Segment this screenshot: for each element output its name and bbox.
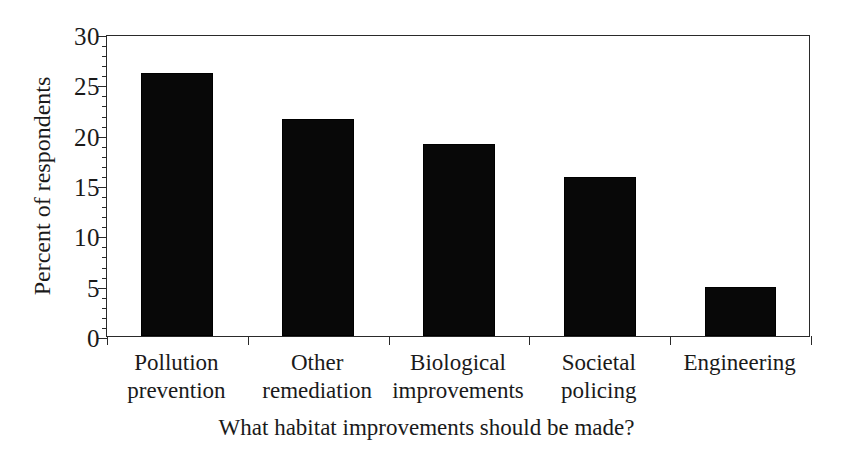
y-axis-tick-label: 5 xyxy=(87,275,100,300)
y-axis-minor-tick xyxy=(102,117,107,118)
y-axis-minor-tick xyxy=(102,46,107,47)
y-axis-tick-label: 0 xyxy=(87,326,100,351)
y-axis-minor-tick xyxy=(102,278,107,279)
y-axis-minor-tick xyxy=(102,328,107,329)
bar xyxy=(423,144,495,336)
y-axis-minor-tick xyxy=(102,207,107,208)
category-label-line: improvements xyxy=(388,377,529,405)
y-axis-tick-label: 15 xyxy=(74,175,100,200)
x-axis-tick xyxy=(389,336,390,345)
y-axis-minor-tick xyxy=(102,257,107,258)
bar xyxy=(705,287,777,336)
x-axis-category-label: Societalpolicing xyxy=(528,349,669,405)
bar-chart-figure: Percent of respondents 051015202530 Poll… xyxy=(0,0,853,454)
x-axis-tick xyxy=(811,336,812,345)
y-axis-minor-tick xyxy=(102,127,107,128)
category-label-line: Pollution xyxy=(106,349,247,377)
y-axis-minor-tick xyxy=(102,318,107,319)
y-axis-tick-label: 10 xyxy=(74,225,100,250)
x-axis-tick xyxy=(529,336,530,345)
y-axis-minor-tick xyxy=(102,308,107,309)
bar xyxy=(564,177,636,336)
y-axis-minor-tick xyxy=(102,247,107,248)
category-label-line: Biological xyxy=(388,349,529,377)
x-axis-category-label: Biologicalimprovements xyxy=(388,349,529,405)
y-axis-minor-tick xyxy=(102,96,107,97)
y-axis-minor-tick xyxy=(102,298,107,299)
y-axis-minor-tick xyxy=(102,268,107,269)
y-axis-minor-tick xyxy=(102,227,107,228)
y-axis-tick-label: 25 xyxy=(74,74,100,99)
y-axis-minor-tick xyxy=(102,167,107,168)
y-axis-tick-label: 30 xyxy=(74,24,100,49)
y-axis-minor-tick xyxy=(102,147,107,148)
category-label-line: remediation xyxy=(247,377,388,405)
y-axis-minor-tick xyxy=(102,106,107,107)
category-label-line: policing xyxy=(528,377,669,405)
x-axis-tick xyxy=(107,336,108,345)
y-axis-minor-tick xyxy=(102,76,107,77)
bar xyxy=(141,73,213,336)
category-label-line: Other xyxy=(247,349,388,377)
y-axis-minor-tick xyxy=(102,66,107,67)
x-axis-tick xyxy=(670,336,671,345)
x-axis-category-label: Otherremediation xyxy=(247,349,388,405)
y-axis-tick-label: 20 xyxy=(74,124,100,149)
x-axis-category-label: Pollutionprevention xyxy=(106,349,247,405)
y-axis-minor-tick xyxy=(102,177,107,178)
y-axis-minor-tick xyxy=(102,197,107,198)
category-label-line: Engineering xyxy=(669,349,810,377)
plot-area: 051015202530 xyxy=(106,35,810,337)
y-axis-title: Percent of respondents xyxy=(29,26,56,346)
y-axis-minor-tick xyxy=(102,217,107,218)
y-axis-minor-tick xyxy=(102,56,107,57)
y-axis-minor-tick xyxy=(102,157,107,158)
x-axis-category-label: Engineering xyxy=(669,349,810,377)
category-label-line: prevention xyxy=(106,377,247,405)
x-axis-tick xyxy=(248,336,249,345)
category-label-line: Societal xyxy=(528,349,669,377)
x-axis-title: What habitat improvements should be made… xyxy=(0,415,853,441)
bar xyxy=(282,119,354,336)
